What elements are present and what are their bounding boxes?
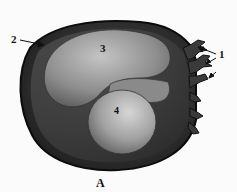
structure-4: [88, 90, 156, 154]
figure-caption: A: [96, 177, 105, 189]
label-3: 3: [100, 43, 106, 54]
label-2: 2: [11, 34, 17, 45]
seed-cross-section-diagram: [0, 0, 237, 192]
label-4: 4: [114, 106, 119, 116]
label-1: 1: [219, 49, 225, 60]
